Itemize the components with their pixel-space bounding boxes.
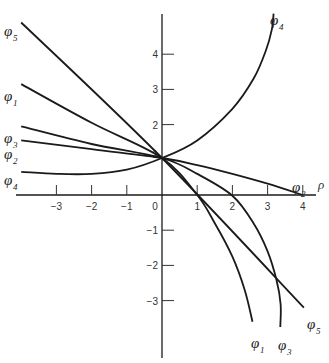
phi5-bottom-subscript: 5 [316, 326, 321, 336]
phi2-right-subscript: 2 [301, 189, 306, 199]
phi4-left-subscript: 4 [13, 182, 18, 192]
phi1-bottom-subscript: 1 [260, 345, 265, 355]
line-chart: −3−2−1012344321−1−2−3ρ φ5φ1φ3φ2φ4φ4φ2φ1φ… [0, 0, 329, 363]
x-tick-label: −2 [86, 201, 98, 212]
x-tick-label: 1 [194, 201, 200, 212]
x-tick-label: 0 [152, 201, 158, 212]
x-tick-label: 2 [230, 201, 236, 212]
phi5-bottom-label: φ [307, 316, 315, 332]
phi1-bottom-label: φ [251, 335, 259, 351]
phi3-bottom-subscript: 3 [286, 347, 292, 357]
axes: −3−2−1012344321−1−2−3ρ [16, 14, 324, 358]
x-tick-label: 4 [300, 201, 306, 212]
phi4-top-subscript: 4 [279, 22, 284, 32]
phi1-left-label: φ [4, 88, 12, 104]
phi5-left-label: φ [4, 23, 12, 39]
phi3-left-label: φ [4, 130, 12, 146]
y-tick-label: −1 [147, 225, 159, 236]
phi2-left-label: φ [4, 146, 12, 162]
x-tick-label: −1 [121, 201, 133, 212]
x-axis-label: ρ [317, 177, 324, 192]
phi2-right-label: φ [292, 179, 300, 195]
phi5-left-subscript: 5 [13, 33, 18, 43]
x-tick-label: 3 [265, 201, 271, 212]
phi3-bottom-label: φ [278, 337, 286, 353]
phi2-left-subscript: 2 [13, 156, 18, 166]
y-tick-label: 3 [152, 84, 158, 95]
phi4-top-label: φ [270, 12, 278, 28]
phi1-left-subscript: 1 [13, 98, 18, 108]
phi4-left-label: φ [4, 172, 12, 188]
y-tick-label: 4 [152, 49, 158, 60]
x-tick-label: −3 [51, 201, 63, 212]
y-tick-label: −2 [147, 260, 159, 271]
y-tick-label: 2 [152, 120, 158, 131]
phi3-left-subscript: 3 [12, 140, 18, 150]
y-tick-label: −3 [147, 296, 159, 307]
